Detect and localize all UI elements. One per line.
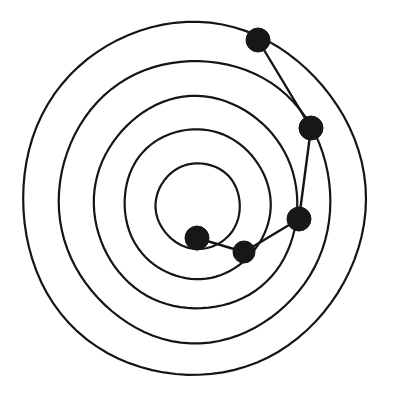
ring-2	[59, 61, 331, 343]
node-3-marker	[287, 207, 311, 231]
node-4-marker	[233, 241, 255, 263]
diagram-canvas	[0, 0, 394, 404]
ring-1-outer	[23, 22, 366, 375]
orbit-nodes-group	[185, 28, 323, 263]
orbit-rings-group	[23, 22, 366, 375]
node-1-marker	[246, 28, 270, 52]
orbit-diagram-svg	[0, 0, 394, 404]
edge-node-2-to-node-3	[299, 128, 311, 219]
node-5-marker	[185, 226, 209, 250]
edge-node-1-to-node-2	[258, 40, 311, 128]
node-2-marker	[299, 116, 323, 140]
